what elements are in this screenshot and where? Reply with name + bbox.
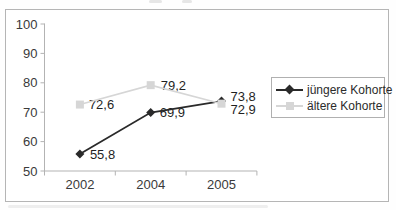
y-tick-label: 80	[23, 75, 37, 90]
square-marker-icon	[276, 101, 303, 111]
y-tick-label: 70	[23, 105, 37, 120]
data-point-diamond	[146, 108, 155, 117]
x-tick-label: 2002	[65, 177, 94, 192]
y-tick-label: 50	[23, 164, 37, 179]
legend: jüngere Kohorte ältere Kohorte	[271, 77, 385, 118]
chart-area: 100908070605020022004200555,869,973,872,…	[0, 0, 396, 210]
data-point-square	[76, 101, 84, 109]
x-tick-label: 2004	[136, 177, 165, 192]
diamond-marker-icon	[276, 85, 303, 95]
data-label: 55,8	[90, 147, 115, 162]
legend-label-juengere: jüngere Kohorte	[307, 83, 392, 97]
legend-item-juengere-kohorte: jüngere Kohorte	[276, 82, 381, 97]
data-label: 72,9	[231, 102, 256, 117]
legend-square-glyph	[286, 102, 294, 110]
data-point-diamond	[75, 149, 84, 158]
legend-item-aeltere-kohorte: ältere Kohorte	[276, 98, 381, 113]
legend-diamond-glyph	[285, 85, 295, 95]
data-point-square	[147, 81, 155, 89]
data-point-square	[218, 100, 226, 108]
x-tick-label: 2005	[207, 177, 236, 192]
y-tick-label: 60	[23, 134, 37, 149]
legend-label-aeltere: ältere Kohorte	[307, 99, 382, 113]
y-tick-label: 90	[23, 46, 37, 61]
y-tick-label: 100	[16, 17, 38, 32]
